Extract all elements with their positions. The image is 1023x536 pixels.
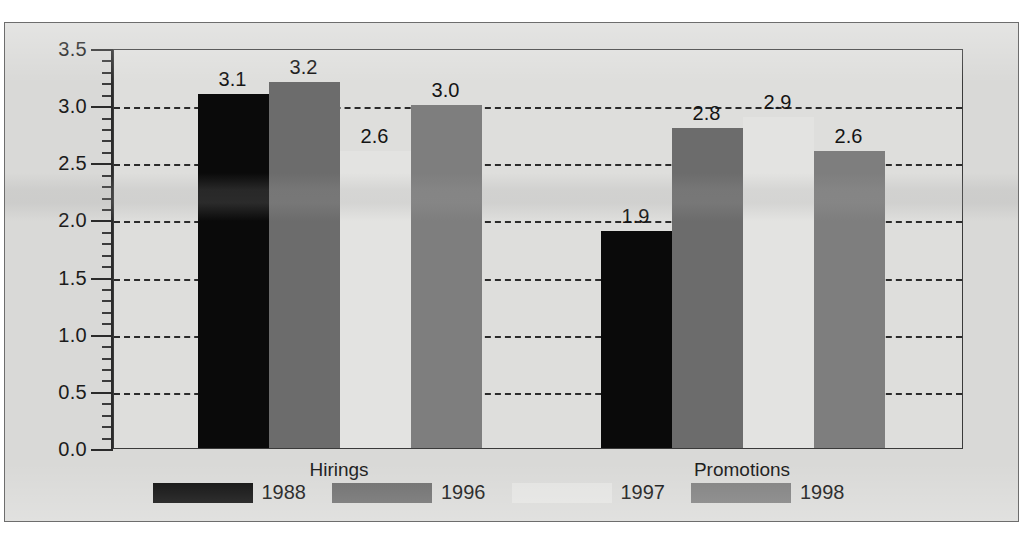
y-axis-tick-major bbox=[91, 106, 113, 108]
bar-value-label: 2.6 bbox=[835, 125, 863, 148]
y-axis-label: 1.0 bbox=[58, 323, 87, 346]
y-axis-tick-major bbox=[91, 163, 113, 165]
y-axis-label: 3.0 bbox=[58, 95, 87, 118]
legend-label: 1996 bbox=[441, 481, 486, 504]
y-axis-tick-major bbox=[91, 449, 113, 451]
chart-legend: 1988199619971998 bbox=[5, 481, 1018, 504]
legend-label: 1988 bbox=[262, 481, 307, 504]
bar-value-label: 2.6 bbox=[361, 125, 389, 148]
bar-value-label: 1.9 bbox=[622, 205, 650, 228]
y-axis-label: 2.0 bbox=[58, 209, 87, 232]
plot-area bbox=[113, 49, 963, 449]
y-axis-tick-major bbox=[91, 49, 113, 51]
y-axis-label: 1.5 bbox=[58, 266, 87, 289]
category-label: Promotions bbox=[694, 459, 790, 481]
bar-value-label: 2.8 bbox=[693, 102, 721, 125]
legend-item[interactable]: 1997 bbox=[512, 481, 692, 504]
legend-label: 1998 bbox=[800, 481, 845, 504]
bar bbox=[672, 128, 743, 448]
legend-item[interactable]: 1988 bbox=[153, 481, 333, 504]
bar-value-label: 3.0 bbox=[432, 79, 460, 102]
y-axis-label: 0.5 bbox=[58, 380, 87, 403]
bar bbox=[198, 94, 269, 448]
y-axis-tick-major bbox=[91, 278, 113, 280]
legend-item[interactable]: 1998 bbox=[691, 481, 871, 504]
y-axis: 0.00.51.01.52.02.53.03.5 bbox=[5, 49, 113, 449]
legend-swatch bbox=[153, 483, 253, 503]
bar-value-label: 3.2 bbox=[290, 56, 318, 79]
category-label: Hirings bbox=[309, 459, 368, 481]
y-axis-label: 3.5 bbox=[58, 38, 87, 61]
legend-swatch bbox=[332, 483, 432, 503]
legend-swatch bbox=[691, 483, 791, 503]
bar bbox=[269, 82, 340, 448]
legend-item[interactable]: 1996 bbox=[332, 481, 512, 504]
legend-swatch bbox=[512, 483, 612, 503]
y-axis-tick-major bbox=[91, 220, 113, 222]
bar-value-label: 2.9 bbox=[764, 91, 792, 114]
y-axis-tick-major bbox=[91, 392, 113, 394]
legend-label: 1997 bbox=[621, 481, 666, 504]
bar bbox=[814, 151, 885, 448]
y-axis-label: 0.0 bbox=[58, 438, 87, 461]
bar bbox=[601, 231, 672, 448]
bar-value-label: 3.1 bbox=[219, 68, 247, 91]
y-axis-label: 2.5 bbox=[58, 152, 87, 175]
bar bbox=[340, 151, 411, 448]
y-axis-tick-major bbox=[91, 335, 113, 337]
bar bbox=[743, 117, 814, 448]
bar bbox=[411, 105, 482, 448]
figure-panel: 0.00.51.01.52.02.53.03.5 3.13.22.63.01.9… bbox=[4, 22, 1019, 522]
